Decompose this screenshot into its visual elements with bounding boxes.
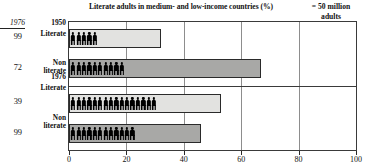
legend-unit-note: = 50 million adults <box>296 2 366 21</box>
x-tick-label-80: 80 <box>295 155 303 164</box>
x-tick-label-40: 40 <box>180 155 188 164</box>
x-tick-label-100: 100 <box>350 155 362 164</box>
legend-unit-line2: adults <box>296 12 366 22</box>
side-index-header: 1976 <box>0 18 25 29</box>
category-label-0: Literate <box>28 30 66 38</box>
side-index-value-1: 72 <box>0 63 22 72</box>
pictogram-group-1 <box>70 60 124 77</box>
side-index-column: 1976 99723999 <box>0 18 28 152</box>
chart-title: Literate adults in medium- and low-incom… <box>62 2 300 11</box>
pictogram-group-2 <box>70 95 157 112</box>
pictogram-bar-chart: Literate adults in medium- and low-incom… <box>0 0 368 168</box>
group-divider <box>69 86 356 87</box>
bar-0 <box>69 29 161 48</box>
bar-2 <box>69 94 221 113</box>
person-icon <box>92 30 97 47</box>
category-label-3: Nonliterate <box>28 114 66 130</box>
side-index-value-2: 39 <box>0 97 22 106</box>
pictogram-group-3 <box>70 125 135 142</box>
side-index-value-0: 99 <box>0 32 22 41</box>
category-label-2: Literate <box>28 84 66 92</box>
x-tick-label-60: 60 <box>237 155 245 164</box>
x-tick-label-20: 20 <box>122 155 130 164</box>
side-index-value-3: 99 <box>0 128 22 137</box>
x-axis-labels: 020406080100 <box>68 155 357 167</box>
category-label-column: 1950LiterateNonliterate1976LiterateNonli… <box>28 18 66 152</box>
bar-3 <box>69 124 201 143</box>
x-tick-label-0: 0 <box>67 155 71 164</box>
person-icon <box>119 60 124 77</box>
person-icon <box>151 95 156 112</box>
legend-unit-line1: = 50 million <box>312 2 351 11</box>
pictogram-group-0 <box>70 30 97 47</box>
person-icon <box>130 125 135 142</box>
bar-1 <box>69 59 261 78</box>
group-label-1950: 1950 <box>28 18 66 27</box>
plot-area <box>68 21 357 151</box>
group-label-1976: 1976 <box>28 72 66 81</box>
